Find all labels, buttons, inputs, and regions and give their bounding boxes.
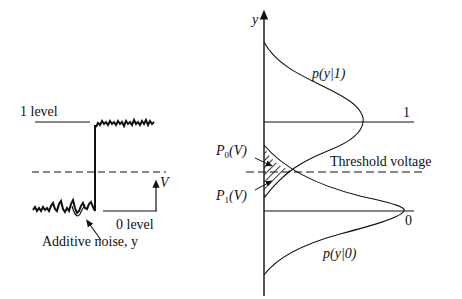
- p0-label: P0(V): [215, 143, 247, 160]
- level-one-label: 1: [403, 105, 410, 120]
- pdf-one-label: p(y|1): [311, 66, 346, 82]
- right-panel: y 1 0 p(y|1) p(y|0) Threshold voltage P0…: [215, 12, 431, 296]
- left-panel: 1 level 0 level V Additive noise, y: [20, 104, 170, 249]
- v-label: V: [160, 175, 170, 190]
- zero-level-label: 0 level: [116, 217, 154, 232]
- high-signal-noise: [96, 120, 154, 127]
- threshold-label: Threshold voltage: [330, 154, 431, 169]
- diagram-canvas: 1 level 0 level V Additive noise, y y 1 …: [0, 0, 462, 299]
- p1-label: P1(V): [215, 188, 247, 205]
- low-signal-noise: [33, 200, 95, 213]
- y-axis-label: y: [250, 12, 259, 27]
- noise-label: Additive noise, y: [42, 234, 138, 249]
- pdf-zero-label: p(y|0): [322, 246, 357, 262]
- one-level-label: 1 level: [20, 104, 58, 119]
- level-zero-label: 0: [405, 213, 412, 228]
- error-region-hatch: [264, 145, 296, 199]
